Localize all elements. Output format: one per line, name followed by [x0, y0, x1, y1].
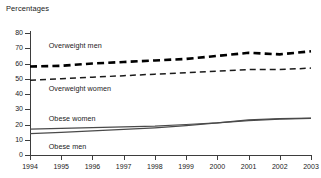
x-tick-label: 2002: [265, 163, 295, 171]
x-tick-mark: [155, 155, 156, 160]
y-tick-label: 10: [1, 136, 23, 143]
x-tick-label: 1997: [109, 163, 139, 171]
y-tick-label: 70: [1, 44, 23, 51]
y-tick-label: 30: [1, 105, 23, 112]
x-tick-label: 1999: [171, 163, 201, 171]
plot-area: [30, 33, 311, 155]
series-label-obese-women: Obese women: [49, 114, 96, 123]
y-tick-label: 60: [1, 60, 23, 67]
series-line: [30, 51, 311, 66]
x-tick-label: 2003: [296, 163, 321, 171]
x-tick-mark: [61, 155, 62, 160]
y-tick-label: 50: [1, 75, 23, 82]
x-tick-label: 2000: [202, 163, 232, 171]
x-tick-mark: [30, 155, 31, 160]
series-line: [30, 68, 311, 80]
x-tick-mark: [249, 155, 250, 160]
x-tick-label: 1995: [46, 163, 76, 171]
x-tick-mark: [217, 155, 218, 160]
series-label-overweight-men: Overweight men: [49, 41, 102, 50]
x-tick-label: 2001: [234, 163, 264, 171]
y-tick-label: 0: [1, 151, 23, 158]
x-tick-label: 1996: [77, 163, 107, 171]
series-lines: [30, 33, 311, 155]
series-label-overweight-women: Overweight women: [49, 84, 111, 93]
x-tick-mark: [92, 155, 93, 160]
x-tick-label: 1998: [140, 163, 170, 171]
y-tick-label: 20: [1, 121, 23, 128]
x-axis-line: [30, 155, 311, 156]
x-tick-mark: [124, 155, 125, 160]
chart-container: Percentages 80706050403020100 1994199519…: [0, 0, 321, 178]
x-tick-mark: [186, 155, 187, 160]
y-tick-label: 40: [1, 90, 23, 97]
y-tick-label: 80: [1, 29, 23, 36]
x-tick-label: 1994: [15, 163, 45, 171]
x-tick-mark: [311, 155, 312, 160]
x-tick-mark: [280, 155, 281, 160]
series-label-obese-men: Obese men: [49, 142, 87, 151]
y-axis-labels: 80706050403020100: [0, 0, 23, 178]
